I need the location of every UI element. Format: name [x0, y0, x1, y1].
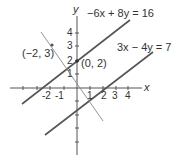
y-axis-label: y: [73, 4, 79, 15]
x-tick-3: 3: [112, 91, 118, 101]
x-tick-1: 1: [87, 91, 93, 101]
point-label-neg2-3: (−2, 3): [22, 48, 54, 59]
y-tick-2: 2: [67, 56, 73, 66]
x-tick-neg2: -2: [42, 91, 51, 101]
x-axis-label: x: [144, 82, 150, 93]
y-tick-1: 1: [67, 69, 73, 79]
y-tick-4: 4: [67, 28, 73, 38]
x-tick-4: 4: [125, 91, 131, 101]
y-tick-3: 3: [67, 41, 73, 51]
x-tick-2: 2: [101, 91, 107, 101]
point-label-0-2: (0, 2): [81, 58, 107, 69]
equation-line-1: −6x + 8y = 16: [87, 8, 154, 19]
point-0-2: [75, 59, 79, 63]
coordinate-graph: [0, 0, 177, 160]
equation-line-2: 3x − 4y = 7: [117, 42, 171, 53]
x-axis: [10, 86, 142, 90]
x-tick-neg1: -1: [55, 91, 64, 101]
